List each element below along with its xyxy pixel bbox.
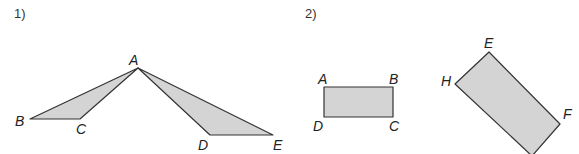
rectangle-abcd: [324, 87, 393, 117]
figure-1-number: 1): [14, 6, 26, 21]
label-d: D: [198, 137, 208, 153]
label-c: C: [76, 121, 87, 137]
label-d2: D: [313, 118, 323, 134]
label-h2: H: [441, 73, 452, 89]
geometry-diagram: 1) A B C D E 2) A B C D E H F: [0, 0, 579, 154]
label-e2: E: [484, 35, 494, 51]
label-a2: A: [317, 71, 327, 87]
figure-2: 2) A B C D E H F: [305, 6, 573, 154]
label-b: B: [15, 113, 24, 129]
triangle-ade: [138, 68, 273, 135]
triangle-abc: [30, 68, 138, 119]
label-c2: C: [389, 118, 400, 134]
label-a: A: [128, 52, 138, 68]
figure-2-number: 2): [305, 6, 317, 21]
label-b2: B: [389, 71, 398, 87]
rotated-rectangle-efgh: [455, 52, 560, 154]
label-f2: F: [563, 106, 573, 122]
label-e: E: [273, 137, 283, 153]
figure-1: 1) A B C D E: [14, 6, 283, 153]
